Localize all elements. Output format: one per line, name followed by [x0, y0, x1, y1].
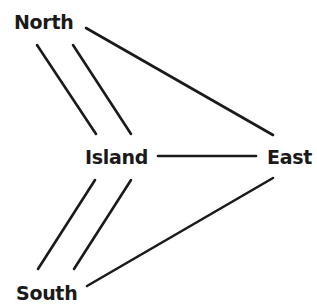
edge-south-east — [87, 178, 273, 286]
edge-north-island-1 — [37, 45, 96, 134]
edge-north-island-2 — [73, 45, 131, 134]
node-south: South — [16, 282, 77, 304]
edge-island-south-1 — [38, 180, 95, 269]
node-east: East — [267, 146, 312, 168]
node-north: North — [14, 11, 73, 33]
edge-north-east — [86, 28, 273, 135]
edge-island-south-2 — [74, 180, 131, 269]
node-island: Island — [85, 146, 148, 168]
